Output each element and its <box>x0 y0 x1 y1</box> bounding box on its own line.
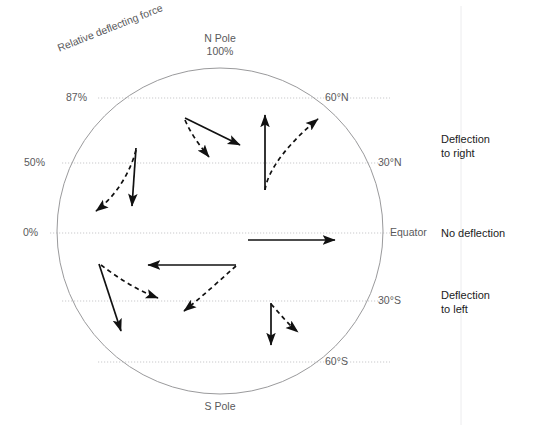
latitude-label-60S: 60°S <box>325 355 348 368</box>
arrow-n30-deflected <box>96 150 136 211</box>
arrow-group-south <box>99 264 298 345</box>
latitude-gridlines <box>50 98 390 362</box>
annotation-equator-line1: No deflection <box>441 226 505 240</box>
latitude-label-30S: 30°S <box>378 294 401 307</box>
annotation-north-line1: Deflection <box>441 132 490 146</box>
force-label-0: 0% <box>23 226 38 239</box>
arrow-s30a-initial <box>99 264 121 331</box>
annotation-north-line2: to right <box>441 146 475 160</box>
arrow-s30b-deflected <box>184 266 236 311</box>
latitude-label-equator: Equator <box>390 226 427 239</box>
force-label-87: 87% <box>66 91 87 104</box>
south-pole-label: S Pole <box>170 400 270 413</box>
arrow-s30a-deflected <box>101 265 158 298</box>
annotation-south-line2: to left <box>441 302 468 316</box>
arrow-n60-deflected <box>265 119 318 190</box>
north-pole-value: 100% <box>170 45 270 58</box>
arrow-s60-deflected <box>271 304 298 332</box>
north-pole-label: N Pole <box>170 32 270 45</box>
coriolis-diagram: Relative deflecting force N Pole 100% S … <box>0 0 537 431</box>
annotation-south-line1: Deflection <box>441 288 490 302</box>
latitude-label-30N: 30°N <box>378 156 401 169</box>
arrow-n30-initial <box>132 148 136 206</box>
globe-outline <box>57 68 383 394</box>
arrow-n45-deflected <box>185 120 209 157</box>
diagram-canvas <box>0 0 537 431</box>
latitude-label-60N: 60°N <box>325 91 348 104</box>
arrow-n45-initial <box>185 118 240 145</box>
force-label-50: 50% <box>24 156 45 169</box>
